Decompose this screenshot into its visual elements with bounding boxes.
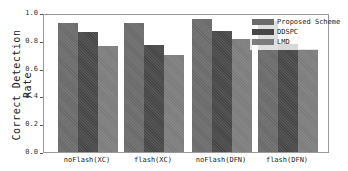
bar xyxy=(278,44,298,152)
bar xyxy=(124,23,144,152)
bar xyxy=(98,46,118,152)
legend-item: DDSPC xyxy=(252,27,298,36)
bar xyxy=(232,39,252,152)
y-tick-mark xyxy=(40,153,43,154)
bar xyxy=(164,55,184,152)
legend-label: LMD xyxy=(277,38,290,46)
bar xyxy=(298,49,318,152)
legend-item: Proposed Scheme xyxy=(252,17,340,26)
y-tick-label: 0.8 xyxy=(14,37,38,45)
y-tick-label: 1.0 xyxy=(14,9,38,17)
x-tick-label: noFlash(DFN) xyxy=(186,156,256,164)
bar xyxy=(212,31,232,152)
bar xyxy=(192,19,212,152)
y-tick-label: 0.6 xyxy=(14,65,38,73)
x-tick-label: flash(DFN) xyxy=(252,156,322,164)
legend-label: Proposed Scheme xyxy=(277,18,340,26)
x-tick-label: noFlash(XC) xyxy=(52,156,122,164)
y-tick-label: 0.2 xyxy=(14,120,38,128)
y-tick-label: 0.0 xyxy=(14,148,38,156)
legend-swatch xyxy=(252,29,274,35)
bar xyxy=(78,32,98,152)
bar xyxy=(58,23,78,152)
legend-swatch xyxy=(252,39,274,45)
x-tick-label: flash(XC) xyxy=(118,156,188,164)
legend-label: DDSPC xyxy=(277,28,298,36)
y-tick-label: 0.4 xyxy=(14,92,38,100)
bar-chart: Correct Detection Rate 0.00.20.40.60.81.… xyxy=(0,0,348,171)
legend-swatch xyxy=(252,19,274,25)
legend: Proposed SchemeDDSPCLMD xyxy=(250,16,328,50)
legend-item: LMD xyxy=(252,37,290,46)
bar xyxy=(144,45,164,152)
